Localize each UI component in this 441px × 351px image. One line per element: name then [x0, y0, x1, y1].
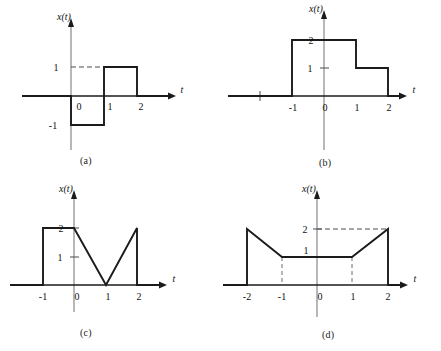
x-tick-d-2: 2 — [386, 291, 391, 302]
x-tick-c-0: 0 — [75, 291, 80, 302]
x-tick-b-neg1: -1 — [289, 102, 297, 113]
signal-trace-b — [228, 40, 400, 96]
y-tick-a-neg1: -1 — [49, 120, 57, 131]
y-axis-label-a: x(t) — [56, 11, 72, 23]
panel-a: 1 -1 0 1 2 x(t) t (a) — [0, 0, 215, 172]
y-axis-label-c: x(t) — [58, 183, 74, 195]
panel-caption-d: (d) — [322, 329, 334, 340]
y-tick-d-1: 1 — [304, 245, 309, 256]
x-axis-label-c: t — [173, 273, 176, 284]
x-tick-c-1: 1 — [106, 291, 111, 302]
panel-c: 2 1 -1 0 1 2 x(t) t (c) — [0, 172, 215, 351]
y-axis-label-b: x(t) — [308, 3, 324, 15]
x-tick-c-2: 2 — [137, 291, 142, 302]
x-tick-d-neg2: -2 — [243, 291, 251, 302]
x-tick-d-1: 1 — [351, 291, 356, 302]
plot-a-svg: 1 -1 0 1 2 x(t) t — [0, 0, 215, 172]
panel-d: 2 1 -2 -1 0 1 2 x(t) t (d) — [215, 172, 441, 351]
x-tick-c-neg1: -1 — [39, 291, 47, 302]
y-axis-label-d: x(t) — [301, 183, 317, 195]
y-tick-b-2: 2 — [309, 35, 314, 46]
signal-trace-c — [10, 228, 160, 285]
x-tick-d-0: 0 — [318, 291, 323, 302]
panel-caption-a: (a) — [80, 155, 92, 166]
plot-d-svg: 2 1 -2 -1 0 1 2 x(t) t — [215, 172, 441, 351]
x-tick-a-1: 1 — [108, 101, 113, 112]
signal-trace-d — [223, 229, 401, 285]
x-axis-label-a: t — [181, 84, 184, 95]
x-tick-a-2: 2 — [139, 101, 144, 112]
x-tick-b-2: 2 — [387, 102, 392, 113]
x-axis-arrow-b — [399, 93, 407, 100]
x-axis-label-b: t — [413, 84, 416, 95]
figure-grid: 1 -1 0 1 2 x(t) t (a) 2 — [0, 0, 441, 351]
x-tick-b-1: 1 — [355, 102, 360, 113]
x-tick-b-0: 0 — [323, 102, 328, 113]
x-axis-arrow-d — [400, 282, 408, 289]
panel-caption-c: (c) — [80, 327, 92, 338]
panel-b: 2 1 -1 0 1 2 x(t) t (b) — [215, 0, 441, 172]
plot-c-svg: 2 1 -1 0 1 2 x(t) t — [0, 172, 215, 351]
x-axis-arrow-c — [159, 282, 167, 289]
y-tick-b-1: 1 — [308, 63, 313, 74]
panel-caption-b: (b) — [319, 157, 331, 168]
x-tick-d-neg1: -1 — [278, 291, 286, 302]
plot-b-svg: 2 1 -1 0 1 2 x(t) t — [215, 0, 441, 172]
y-tick-a-1: 1 — [54, 62, 59, 73]
y-tick-d-2: 2 — [303, 224, 308, 235]
x-axis-label-d: t — [414, 273, 417, 284]
y-tick-c-1: 1 — [58, 252, 63, 263]
y-tick-c-2: 2 — [59, 223, 64, 234]
x-tick-a-0: 0 — [77, 101, 82, 112]
